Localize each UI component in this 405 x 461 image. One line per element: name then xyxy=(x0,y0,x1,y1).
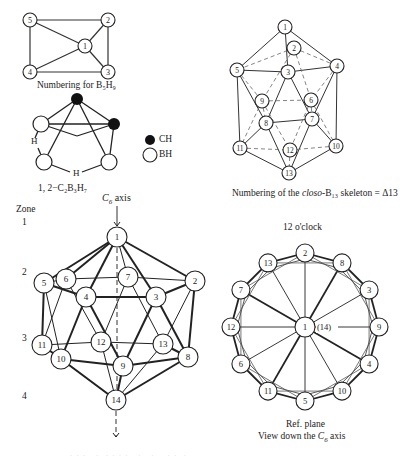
svg-text:1: 1 xyxy=(115,232,120,242)
atom-node-4: 4 xyxy=(23,65,37,79)
atom-node-12: 12 xyxy=(91,332,111,352)
atom-node-5: 5 xyxy=(296,392,314,410)
atom-node-11: 11 xyxy=(259,382,277,400)
atom-node-3: 3 xyxy=(101,65,115,79)
atom-node-2: 2 xyxy=(101,13,115,27)
svg-text:3: 3 xyxy=(106,68,110,77)
c2b3h7-atoms xyxy=(33,93,157,170)
zone-3: 3 xyxy=(22,333,27,343)
svg-text:5: 5 xyxy=(42,278,47,288)
atom-node-7: 7 xyxy=(305,112,319,126)
atom-node-6: 6 xyxy=(304,93,318,107)
svg-text:7: 7 xyxy=(239,285,243,295)
atom-node-1: 1 xyxy=(78,39,92,53)
atom-node-14: 14 xyxy=(106,390,126,410)
svg-text:5: 5 xyxy=(235,66,239,75)
axis-rest: axis xyxy=(112,192,131,203)
bh-atom xyxy=(33,116,49,132)
svg-text:1: 1 xyxy=(303,322,308,332)
svg-text:10: 10 xyxy=(332,142,340,151)
atom-node-9: 9 xyxy=(113,356,133,376)
atom-node-11: 11 xyxy=(32,335,52,355)
svg-text:10: 10 xyxy=(57,354,67,364)
atom-node-9: 9 xyxy=(255,94,269,108)
footer-caption: . . . . . . . . . . . . . xyxy=(70,448,187,458)
atom-node-5: 5 xyxy=(23,13,37,27)
svg-text:3: 3 xyxy=(154,292,159,302)
ch-atom xyxy=(71,93,83,105)
atom-node-10: 10 xyxy=(329,139,343,153)
atom-node-10: 10 xyxy=(333,382,351,400)
atom-node-4: 4 xyxy=(76,287,96,307)
svg-text:11: 11 xyxy=(236,144,243,153)
atom-node-8: 8 xyxy=(178,347,198,367)
svg-text:4: 4 xyxy=(367,359,372,369)
svg-text:1: 1 xyxy=(83,42,87,51)
atom-node-13: 13 xyxy=(259,254,277,272)
svg-text:7: 7 xyxy=(126,272,131,282)
svg-text:6: 6 xyxy=(309,96,313,105)
delta13-nodes: 12453968711121013 xyxy=(230,20,344,180)
svg-text:8: 8 xyxy=(186,352,191,362)
atom-node-3: 3 xyxy=(281,65,295,79)
svg-text:2: 2 xyxy=(292,44,296,53)
atom-node-5: 5 xyxy=(34,273,54,293)
svg-text:6: 6 xyxy=(239,359,243,369)
legend-bh-icon xyxy=(143,148,157,162)
atom-node-3: 3 xyxy=(146,287,166,307)
b5h9-nodes: 52143 xyxy=(23,13,115,79)
svg-text:3: 3 xyxy=(367,285,371,295)
svg-text:9: 9 xyxy=(377,322,381,332)
svg-text:2: 2 xyxy=(193,276,198,286)
atom-node-8: 8 xyxy=(259,116,273,130)
atom-node-4: 4 xyxy=(330,59,344,73)
icosahedron-nodes: 1675243111213109814 xyxy=(32,227,205,410)
legend-ch-icon xyxy=(145,135,155,145)
diagram-canvas: 52143 xyxy=(0,0,405,461)
svg-text:9: 9 xyxy=(260,97,264,106)
legend-bh-label: BH xyxy=(159,149,172,159)
svg-text:12: 12 xyxy=(286,146,294,155)
svg-text:9: 9 xyxy=(121,361,126,371)
bridge-h-left: H xyxy=(31,136,38,146)
svg-text:2: 2 xyxy=(106,16,110,25)
svg-text:13: 13 xyxy=(285,169,293,178)
atom-node-8: 8 xyxy=(333,254,351,272)
svg-text:8: 8 xyxy=(340,258,344,268)
atom-node-2: 2 xyxy=(287,41,301,55)
svg-text:1: 1 xyxy=(283,23,287,32)
zone-4: 4 xyxy=(22,391,27,401)
view-prefix: View down the xyxy=(258,431,318,441)
ch-atom xyxy=(108,118,120,130)
wheel-diagram: 28394105116127131(14) xyxy=(222,244,388,410)
svg-text:(14): (14) xyxy=(317,322,331,332)
atom-node-10: 10 xyxy=(51,349,71,369)
atom-node-2: 2 xyxy=(296,244,314,262)
atom-node-5: 5 xyxy=(230,63,244,77)
b5h9-caption: Numbering for B₅H₉ xyxy=(37,80,116,90)
atom-node-1: 1 xyxy=(278,20,292,34)
svg-text:14: 14 xyxy=(112,395,122,405)
atom-node-1: 1 xyxy=(107,227,127,247)
svg-text:12: 12 xyxy=(97,337,106,347)
svg-text:5: 5 xyxy=(28,16,32,25)
svg-text:4: 4 xyxy=(84,292,89,302)
atom-node-7: 7 xyxy=(232,281,250,299)
delta13-caption: Numbering of the closo-B₁₃ skeleton = Δ1… xyxy=(232,188,398,198)
svg-text:7: 7 xyxy=(310,115,314,124)
view-down-label: View down the C6 axis xyxy=(258,431,345,444)
zone-2: 2 xyxy=(22,267,27,277)
caption-suffix: -B₁₃ skeleton = Δ13 xyxy=(322,188,398,198)
atom-node-13: 13 xyxy=(153,334,173,354)
atom-node-2: 2 xyxy=(185,271,205,291)
c6-axis-label: C6 axis xyxy=(102,192,131,206)
caption-italic: closo xyxy=(302,188,322,198)
svg-text:11: 11 xyxy=(38,340,47,350)
atom-node-13: 13 xyxy=(282,166,296,180)
svg-text:6: 6 xyxy=(64,274,69,284)
c2b3h7-caption: 1, 2−C₂B₃H₇ xyxy=(38,183,87,193)
icosahedron-edges xyxy=(42,237,195,400)
svg-text:5: 5 xyxy=(303,396,307,406)
twelve-oclock-label: 12 o'clock xyxy=(283,222,322,232)
zone-1: 1 xyxy=(22,217,27,227)
